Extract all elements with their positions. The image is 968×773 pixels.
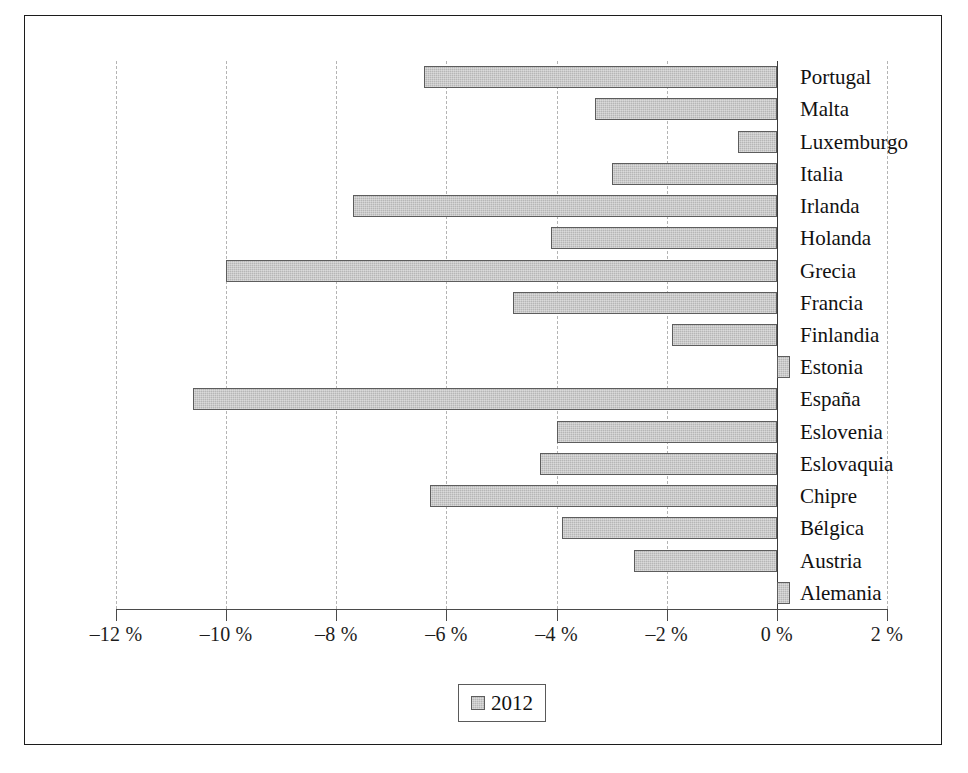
gridline: [336, 61, 337, 609]
legend-label-2012: 2012: [491, 691, 533, 716]
bar: [595, 98, 777, 120]
category-label: Estonia: [800, 355, 863, 380]
category-label: Eslovenia: [800, 419, 883, 444]
category-label: Eslovaquia: [800, 451, 893, 476]
category-label: Alemania: [800, 580, 882, 605]
bar: [424, 66, 776, 88]
bar: [193, 388, 777, 410]
x-tick: [557, 609, 558, 621]
category-label: Malta: [800, 97, 849, 122]
gridline: [116, 61, 117, 609]
bar: [612, 163, 777, 185]
gridline: [226, 61, 227, 609]
bar: [353, 195, 777, 217]
x-tick-label: –8 %: [315, 623, 357, 646]
x-axis-line: [116, 609, 887, 610]
x-tick-label: –6 %: [425, 623, 467, 646]
bar: [777, 582, 790, 604]
bar: [557, 421, 777, 443]
chart-legend: 2012: [458, 684, 546, 722]
category-label: Portugal: [800, 65, 871, 90]
x-tick-label: 2 %: [871, 623, 903, 646]
x-tick-label: –12 %: [90, 623, 143, 646]
x-tick: [116, 609, 117, 621]
category-label: Finlandia: [800, 323, 879, 348]
category-label: Grecia: [800, 258, 856, 283]
category-label: Austria: [800, 548, 862, 573]
x-tick: [777, 609, 778, 621]
legend-swatch-2012: [471, 696, 485, 710]
category-label: Chipre: [800, 484, 857, 509]
x-tick: [887, 609, 888, 621]
gridline: [557, 61, 558, 609]
category-label: Holanda: [800, 226, 871, 251]
x-tick-label: –10 %: [200, 623, 253, 646]
category-label: Bélgica: [800, 516, 864, 541]
x-tick-label: –2 %: [645, 623, 687, 646]
chart-figure: –12 %–10 %–8 %–6 %–4 %–2 %0 %2 % Portuga…: [0, 0, 968, 773]
x-tick-label: 0 %: [761, 623, 793, 646]
chart-outer-frame: –12 %–10 %–8 %–6 %–4 %–2 %0 %2 % Portuga…: [24, 15, 942, 745]
gridline: [446, 61, 447, 609]
category-label: Luxemburgo: [800, 129, 908, 154]
bar: [513, 292, 777, 314]
bar: [738, 131, 777, 153]
category-label: Irlanda: [800, 194, 859, 219]
category-label: Italia: [800, 161, 843, 186]
x-tick: [446, 609, 447, 621]
x-tick: [667, 609, 668, 621]
bar: [672, 324, 777, 346]
bar: [430, 485, 777, 507]
bar: [634, 550, 777, 572]
bar: [551, 227, 777, 249]
bar: [777, 356, 790, 378]
bar: [562, 517, 777, 539]
category-label: España: [800, 387, 861, 412]
zero-axis-line: [777, 61, 778, 610]
x-tick: [336, 609, 337, 621]
x-tick-label: –4 %: [535, 623, 577, 646]
category-label: Francia: [800, 290, 863, 315]
x-tick: [226, 609, 227, 621]
bar: [540, 453, 777, 475]
bar: [226, 260, 777, 282]
